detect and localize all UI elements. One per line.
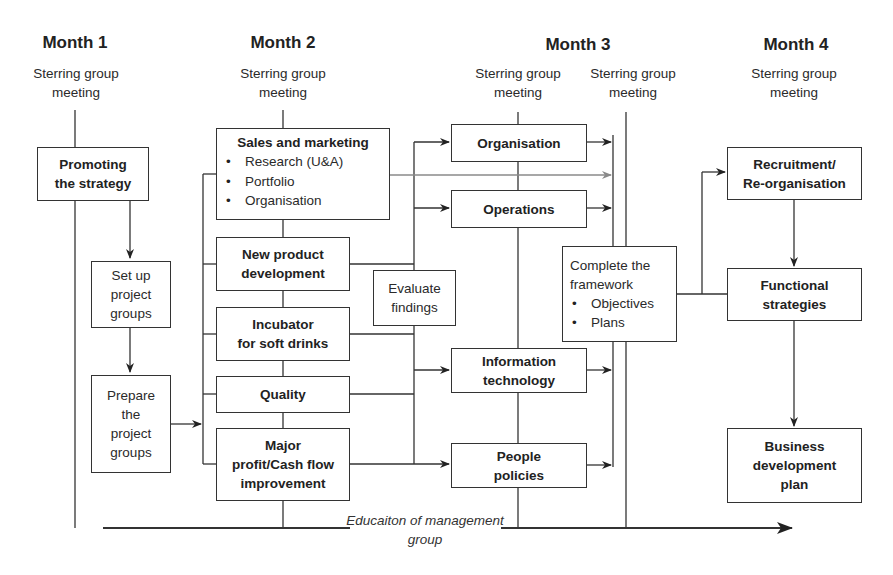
month-1-label: Month 1 bbox=[15, 33, 135, 53]
sales-marketing-bullets: Research (U&A) Portfolio Organisation bbox=[217, 152, 389, 211]
incubator-box: Incubator for soft drinks bbox=[216, 307, 350, 361]
major-profit-box: Major profit/Cash flow improvement bbox=[216, 428, 350, 501]
complete-framework-box: Complete the framework Objectives Plans bbox=[562, 246, 677, 342]
complete-framework-bullets: Objectives Plans bbox=[563, 294, 676, 333]
month-1-meeting: Sterring group meeting bbox=[11, 64, 141, 102]
month-3-meeting: Sterring group meeting bbox=[453, 64, 583, 102]
sales-marketing-box: Sales and marketing Research (U&A) Portf… bbox=[216, 128, 390, 220]
education-label: Educaiton of management group bbox=[345, 511, 505, 549]
operations-box: Operations bbox=[451, 190, 587, 228]
recruitment-box: Recruitment/ Re-organisation bbox=[727, 147, 862, 200]
functional-strategies-box: Functional strategies bbox=[727, 268, 862, 321]
business-development-plan-box: Business development plan bbox=[727, 428, 862, 503]
month-3-second-meeting: Sterring group meeting bbox=[568, 64, 698, 102]
month-4-meeting: Sterring group meeting bbox=[729, 64, 859, 102]
month-3-label: Month 3 bbox=[518, 35, 638, 55]
people-policies-box: People policies bbox=[451, 443, 587, 488]
prepare-project-groups-box: Prepare the project groups bbox=[91, 375, 171, 473]
new-product-development-box: New product development bbox=[216, 237, 350, 291]
information-technology-box: Information technology bbox=[451, 348, 587, 393]
organisation-box: Organisation bbox=[451, 124, 587, 162]
evaluate-findings-box: Evaluate findings bbox=[373, 270, 456, 326]
month-2-label: Month 2 bbox=[223, 33, 343, 53]
month-4-label: Month 4 bbox=[736, 35, 856, 55]
quality-box: Quality bbox=[216, 376, 350, 413]
promoting-strategy-box: Promoting the strategy bbox=[37, 147, 149, 201]
month-2-meeting: Sterring group meeting bbox=[218, 64, 348, 102]
setup-project-groups-box: Set up project groups bbox=[91, 261, 171, 328]
